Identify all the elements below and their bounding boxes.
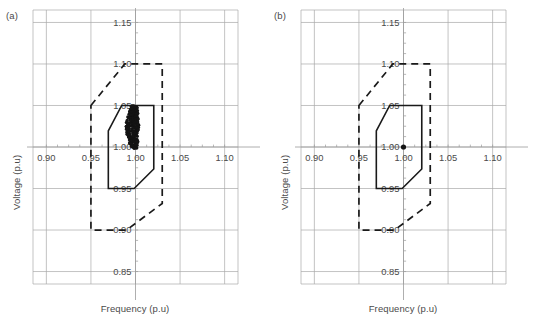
x-tick-label: 1.10 — [216, 152, 234, 163]
data-point — [131, 104, 135, 108]
panel-a-plot: 0.850.900.951.001.051.101.150.900.951.00… — [0, 0, 268, 327]
data-point — [401, 144, 406, 149]
panel-a: (a) Voltage (p.u) Frequency (p.u) 0.850.… — [0, 0, 268, 327]
x-tick-label: 1.00 — [394, 152, 412, 163]
x-tick-label: 1.05 — [439, 152, 457, 163]
x-tick-label: 1.05 — [171, 152, 189, 163]
y-tick-label: 1.15 — [113, 17, 131, 28]
figure-two-panel-operating-region: (a) Voltage (p.u) Frequency (p.u) 0.850.… — [0, 0, 537, 327]
x-tick-label: 1.10 — [484, 152, 502, 163]
panel-b-plot: 0.850.900.951.001.051.101.150.900.951.00… — [268, 0, 536, 327]
y-tick-label: 1.00 — [381, 141, 399, 152]
y-tick-label: 0.85 — [381, 266, 399, 277]
y-tick-label: 0.85 — [113, 266, 131, 277]
x-tick-label: 0.90 — [37, 152, 55, 163]
x-tick-label: 1.00 — [126, 152, 144, 163]
y-tick-label: 1.15 — [381, 17, 399, 28]
panel-b: (b) Voltage (p.u) Frequency (p.u) 0.850.… — [268, 0, 536, 327]
x-tick-label: 0.90 — [305, 152, 323, 163]
